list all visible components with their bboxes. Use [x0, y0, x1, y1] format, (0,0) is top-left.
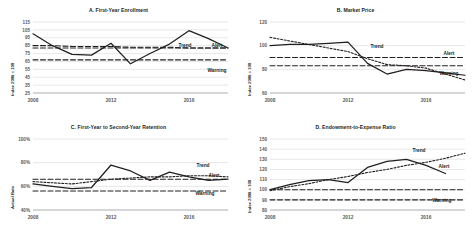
panel-b-plot: 6080100120200820122016TrendAlertWarning [237, 0, 474, 117]
panel-b-market-price: B. Market Price Index 2008 = 100 6080100… [237, 0, 474, 117]
panel-a-plot: 2535455565758595105115200820122016TrendA… [0, 0, 237, 117]
y-tick-label: 75 [25, 51, 31, 56]
series-line-trend [270, 153, 465, 191]
y-tick-label: 95 [25, 35, 31, 40]
x-tick-label: 2012 [343, 215, 354, 220]
y-tick-label: 105 [22, 28, 30, 33]
x-tick-label: 2012 [106, 215, 117, 220]
series-label-trend: Trend [196, 163, 209, 168]
panel-c-plot: 40%60%80%100%200820122016TrendAlertWarni… [0, 117, 237, 234]
x-tick-label: 2016 [421, 98, 432, 103]
y-tick-label: 65 [25, 59, 31, 64]
y-tick-label: 45 [25, 75, 31, 80]
x-tick-label: 2008 [28, 215, 39, 220]
y-tick-label: 90 [262, 198, 268, 203]
y-tick-label: 120 [259, 167, 267, 172]
series-line-trend [33, 176, 228, 184]
series-label-trend: Trend [370, 44, 383, 49]
x-tick-label: 2016 [184, 98, 195, 103]
y-tick-label: 25 [25, 91, 31, 96]
y-tick-label: 115 [23, 20, 31, 25]
y-tick-label: 40% [21, 208, 30, 213]
y-tick-label: 140 [259, 147, 267, 152]
y-tick-label: 130 [259, 157, 267, 162]
y-tick-label: 35 [25, 83, 31, 88]
y-tick-label: 60% [21, 184, 30, 189]
series-label-alert: Alert [209, 173, 220, 178]
y-tick-label: 100% [18, 137, 30, 142]
series-line-actual [33, 165, 228, 189]
x-tick-label: 2012 [106, 98, 117, 103]
series-label-trend: Trend [178, 43, 191, 48]
y-tick-label: 100 [259, 43, 267, 48]
series-label-warning: Warning [195, 191, 214, 196]
y-tick-label: 80 [262, 208, 268, 213]
x-tick-label: 2016 [421, 215, 432, 220]
series-label-trend: Trend [412, 148, 425, 153]
x-tick-label: 2016 [184, 215, 195, 220]
series-line-actual [270, 42, 465, 75]
panel-d-plot: 8090100110120130140150200820122016TrendA… [237, 117, 474, 234]
panel-d-endowment-ratio: D. Endowment-to-Expense Ratio Index 2008… [237, 117, 474, 234]
x-tick-label: 2008 [28, 98, 39, 103]
y-tick-label: 120 [259, 20, 267, 25]
series-label-alert: Alert [444, 51, 455, 56]
series-label-warning: Warning [439, 71, 458, 76]
y-tick-label: 85 [25, 43, 31, 48]
y-tick-label: 55 [25, 67, 31, 72]
series-label-alert: Alert [439, 164, 450, 169]
panel-c-retention: C. First-Year to Second-Year Retention A… [0, 117, 237, 234]
y-tick-label: 80 [262, 67, 268, 72]
y-tick-label: 110 [260, 177, 268, 182]
y-tick-label: 150 [259, 137, 267, 142]
y-tick-label: 80% [21, 160, 30, 165]
x-tick-label: 2008 [265, 215, 276, 220]
y-tick-label: 100 [259, 187, 267, 192]
series-line-trend [270, 37, 465, 80]
series-label-warning: Warning [432, 198, 451, 203]
panel-a-first-year-enrollment: A. First-Year Enrollment Index 2008 = 10… [0, 0, 237, 117]
y-tick-label: 60 [262, 91, 268, 96]
series-label-alert: Alert [212, 43, 223, 48]
x-tick-label: 2012 [343, 98, 354, 103]
chart-figure: A. First-Year Enrollment Index 2008 = 10… [0, 0, 474, 234]
x-tick-label: 2008 [265, 98, 276, 103]
series-label-warning: Warning [207, 68, 226, 73]
